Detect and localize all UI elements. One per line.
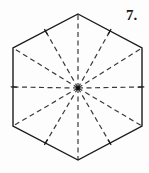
fold-line-to-lower-left-edge: [46, 88, 79, 143]
fold-line-to-upper-left-edge: [46, 31, 79, 88]
figure-container: 7.: [0, 0, 149, 173]
fold-line-to-lower-right-edge: [78, 88, 110, 143]
center-point-group: [76, 86, 80, 90]
figure-number-label: 7.: [126, 8, 137, 23]
fold-line-to-left-edge: [13, 87, 78, 88]
fold-line-to-lower-left: [13, 88, 78, 126]
fold-line-to-upper-left: [13, 48, 78, 88]
fold-line-to-right-edge: [78, 87, 142, 88]
center-point: [76, 86, 80, 90]
fold-line-to-upper-right-edge: [78, 31, 110, 88]
fold-line-to-upper-right: [78, 48, 142, 88]
fold-line-to-lower-right: [78, 88, 142, 126]
hexagon-fold-diagram: [0, 0, 149, 173]
